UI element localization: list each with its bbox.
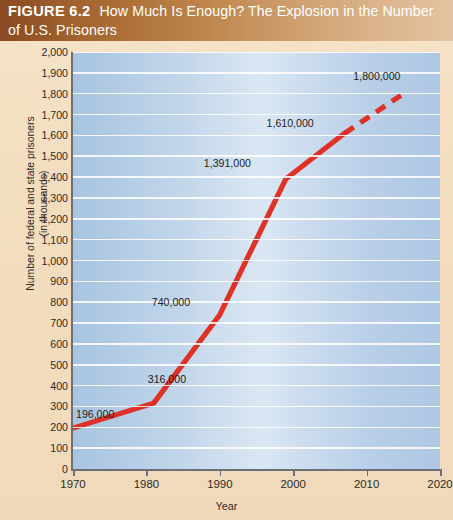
gridline	[73, 385, 440, 387]
data-point-label: 1,391,000	[204, 157, 251, 169]
gridline	[73, 176, 440, 178]
data-point-label: 1,610,000	[267, 117, 314, 129]
figure-number: FIGURE 6.2	[8, 3, 90, 19]
y-axis-title: Number of federal and state prisoners (i…	[25, 79, 50, 329]
x-tick-mark	[73, 470, 75, 476]
x-axis-line	[71, 469, 442, 471]
y-tick-label: 100	[4, 442, 68, 454]
y-axis-title-line-2: (in thousands)	[37, 171, 48, 237]
x-tick-mark	[367, 470, 369, 476]
gridline	[73, 343, 440, 345]
x-tick-mark	[293, 470, 295, 476]
gridline	[73, 239, 440, 241]
gridline	[73, 197, 440, 199]
figure-title-text-1: How Much Is Enough? The Explosion in the…	[99, 3, 433, 19]
gridline	[73, 52, 440, 53]
gridline	[73, 155, 440, 157]
data-point-label: 740,000	[152, 296, 190, 308]
x-tick-mark	[440, 470, 442, 476]
gridline	[73, 427, 440, 429]
y-tick-label: 400	[4, 380, 68, 392]
x-tick-mark	[146, 470, 148, 476]
y-tick-label: 600	[4, 338, 68, 350]
gridline	[73, 301, 440, 303]
gridline	[73, 281, 440, 283]
gridline	[73, 364, 440, 366]
figure-title-line-2: of U.S. Prisoners	[8, 21, 445, 40]
y-tick-label: 1,900	[4, 67, 68, 79]
figure-header: FIGURE 6.2How Much Is Enough? The Explos…	[0, 0, 453, 41]
x-axis-title: Year	[0, 500, 453, 512]
gridline	[73, 322, 440, 324]
gridline	[73, 135, 440, 137]
y-tick-label: 200	[4, 421, 68, 433]
figure-title-line-1: FIGURE 6.2How Much Is Enough? The Explos…	[8, 2, 445, 21]
plot-region: 196,000316,000740,0001,391,0001,610,0001…	[73, 52, 440, 469]
gridline	[73, 260, 440, 262]
x-tick-label: 2020	[427, 478, 452, 490]
x-tick-label: 1980	[134, 478, 159, 490]
x-tick-mark	[220, 470, 222, 476]
x-tick-label: 1970	[60, 478, 85, 490]
data-point-label: 316,000	[148, 373, 186, 385]
gridline	[73, 406, 440, 408]
figure-page: FIGURE 6.2How Much Is Enough? The Explos…	[0, 0, 453, 520]
gridline	[73, 114, 440, 116]
y-tick-label: 300	[4, 400, 68, 412]
gridline	[73, 93, 440, 95]
y-tick-label: 2,000	[4, 46, 68, 58]
x-tick-label: 2000	[281, 478, 306, 490]
data-point-label: 196,000	[76, 408, 114, 420]
gridline	[73, 218, 440, 220]
y-axis-line	[71, 52, 73, 470]
y-tick-label: 0	[4, 463, 68, 475]
y-tick-label: 500	[4, 359, 68, 371]
chart-area: 196,000316,000740,0001,391,0001,610,0001…	[0, 41, 453, 520]
x-tick-label: 1990	[207, 478, 232, 490]
gridline	[73, 447, 440, 449]
data-point-label: 1,800,000	[353, 70, 400, 82]
x-tick-label: 2010	[354, 478, 379, 490]
y-axis-title-line-1: Number of federal and state prisoners	[25, 116, 36, 290]
